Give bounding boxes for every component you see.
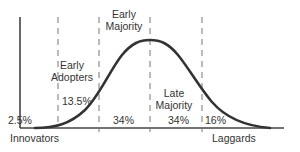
early-majority-label-line1: Early bbox=[99, 8, 149, 20]
laggards-label: Laggards bbox=[212, 132, 262, 144]
diagram-graphics bbox=[0, 0, 300, 152]
late-majority-percent: 34% bbox=[168, 114, 192, 126]
laggards-percent: 16% bbox=[205, 114, 229, 126]
early-adopters-percent: 13.5% bbox=[62, 95, 98, 107]
early-adopters-label-line1: Early bbox=[47, 59, 97, 71]
early-adopters-label: Early Adopters bbox=[47, 59, 97, 83]
early-adopters-label-line2: Adopters bbox=[47, 71, 97, 83]
late-majority-label: Late Majority bbox=[149, 87, 199, 111]
early-majority-label: Early Majority bbox=[99, 8, 149, 32]
late-majority-label-line2: Majority bbox=[149, 99, 199, 111]
bell-curve bbox=[35, 40, 270, 128]
adoption-curve-diagram: Early Adopters Early Majority Late Major… bbox=[0, 0, 300, 152]
innovators-label: Innovators bbox=[10, 132, 60, 144]
early-majority-label-line2: Majority bbox=[99, 20, 149, 32]
early-majority-percent: 34% bbox=[113, 114, 137, 126]
innovators-percent: 2.5% bbox=[8, 114, 48, 126]
late-majority-label-line1: Late bbox=[149, 87, 199, 99]
